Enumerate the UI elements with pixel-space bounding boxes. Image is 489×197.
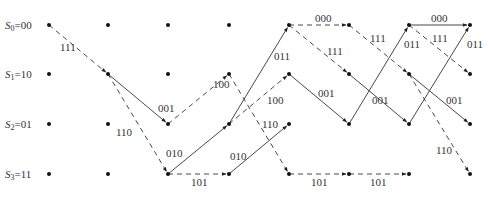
state-node	[166, 72, 170, 76]
edge-label: 100	[213, 78, 230, 90]
state-label-s2: S2=01	[5, 118, 32, 132]
transition-edge	[108, 74, 166, 171]
state-node	[166, 23, 170, 27]
state-node	[47, 23, 51, 27]
state-node	[106, 72, 110, 76]
edge-label: 011	[404, 38, 420, 50]
edge-label: 101	[191, 176, 208, 188]
transition-edge	[229, 28, 287, 124]
state-node	[287, 122, 291, 126]
state-label-s1: S1=10	[5, 68, 32, 82]
edge-label: 111	[60, 41, 76, 53]
state-node	[287, 172, 291, 176]
state-node	[47, 72, 51, 76]
state-node	[347, 72, 351, 76]
edge-label: 001	[318, 87, 335, 99]
transition-edge	[49, 25, 106, 72]
state-node	[347, 172, 351, 176]
state-node	[287, 23, 291, 27]
state-node	[166, 122, 170, 126]
state-node	[407, 172, 411, 176]
state-node	[407, 72, 411, 76]
edge-label: 001	[372, 94, 389, 106]
trellis-diagram: S0=00S1=10S2=01S3=11 1110011101000101010…	[0, 0, 489, 197]
state-label-s0: S0=00	[5, 19, 32, 33]
edge-label: 110	[116, 126, 133, 138]
edge-label: 111	[432, 32, 448, 44]
state-node	[347, 23, 351, 27]
edge-label: 100	[267, 94, 284, 106]
state-node	[468, 72, 472, 76]
state-node	[106, 172, 110, 176]
edge-label: 011	[274, 50, 290, 62]
state-node	[166, 172, 170, 176]
state-node	[227, 23, 231, 27]
edge-label: 101	[370, 176, 387, 188]
state-labels: S0=00S1=10S2=01S3=11	[5, 19, 32, 182]
state-node	[47, 172, 51, 176]
edge-label: 111	[327, 45, 343, 57]
state-node	[468, 23, 472, 27]
state-node	[287, 72, 291, 76]
state-node	[227, 122, 231, 126]
edge-label: 001	[158, 102, 175, 114]
state-node	[347, 122, 351, 126]
state-node	[106, 122, 110, 126]
state-node	[407, 23, 411, 27]
edge-label: 110	[436, 144, 453, 156]
state-node	[468, 122, 472, 126]
state-node	[227, 172, 231, 176]
edge-label: 010	[166, 147, 183, 159]
edge-label: 000	[315, 12, 332, 24]
state-label-s3: S3=11	[5, 168, 31, 182]
edge-label: 111	[370, 32, 386, 44]
transition-edge	[409, 74, 468, 171]
state-node	[468, 172, 472, 176]
edge-label: 011	[467, 38, 483, 50]
edge-label: 000	[431, 12, 448, 24]
state-node	[106, 23, 110, 27]
transition-edge	[108, 74, 166, 122]
state-node	[47, 122, 51, 126]
edge-label: 101	[311, 176, 328, 188]
edge-label: 010	[230, 150, 247, 162]
edge-label: 110	[262, 118, 279, 130]
edge-label: 001	[446, 94, 463, 106]
state-node	[407, 122, 411, 126]
state-node	[227, 72, 231, 76]
